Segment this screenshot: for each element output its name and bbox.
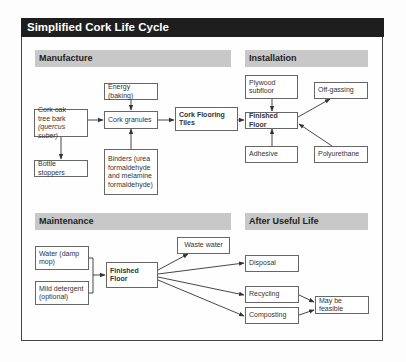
maint-finished-floor-label: Finished Floor	[110, 267, 154, 284]
composting-box: Composting	[245, 307, 299, 324]
water-box: Water (damp mop)	[35, 246, 89, 270]
polyurethane-box: Polyurethane	[314, 146, 368, 163]
polyurethane-label: Polyurethane	[318, 150, 359, 159]
off-gassing-label: Off-gassing	[318, 86, 354, 95]
bottle-stoppers-box: Bottle stoppers	[34, 160, 88, 177]
adhesive-box: Adhesive	[245, 146, 298, 163]
detergent-box: Mild detergent (optional)	[35, 281, 89, 305]
install-finished-floor-label: Finished Floor	[249, 112, 294, 129]
maint-finished-floor-box: Finished Floor	[106, 262, 158, 288]
binders-label: Binders (urea formaldehyde and melamine …	[108, 155, 154, 189]
off-gassing-box: Off-gassing	[314, 82, 368, 99]
cork-oak-line3: (quercus suber)	[38, 123, 84, 140]
plywood-label: Plywood subfloor	[249, 79, 294, 96]
water-label: Water (damp mop)	[39, 250, 85, 267]
install-finished-floor-box: Finished Floor	[245, 112, 298, 129]
may-be-feasible-label: May be feasible	[319, 297, 365, 314]
energy-box: Energy (baking)	[104, 83, 158, 100]
waste-water-label: Waste water	[184, 241, 223, 250]
cork-oak-box: Cork oak tree bark (quercus suber)	[34, 109, 88, 137]
may-be-feasible-box: May be feasible	[315, 296, 369, 314]
recycling-box: Recycling	[245, 286, 299, 303]
detergent-label: Mild detergent (optional)	[39, 285, 85, 302]
cork-granules-label: Cork granules	[108, 116, 152, 125]
disposal-label: Disposal	[249, 259, 276, 268]
bottle-stoppers-label: Bottle stoppers	[38, 160, 84, 177]
disposal-box: Disposal	[245, 255, 299, 272]
binders-box: Binders (urea formaldehyde and melamine …	[104, 149, 158, 195]
plywood-box: Plywood subfloor	[245, 75, 298, 99]
cork-granules-box: Cork granules	[104, 111, 158, 129]
energy-label: Energy (baking)	[108, 83, 154, 100]
cork-oak-line1: Cork oak	[38, 106, 66, 115]
cork-oak-line2: tree bark	[38, 115, 66, 124]
waste-water-box: Waste water	[177, 237, 230, 254]
composting-label: Composting	[249, 311, 286, 320]
cork-tiles-label: Cork Flooring Tiles	[179, 111, 234, 128]
adhesive-label: Adhesive	[249, 150, 278, 159]
recycling-label: Recycling	[249, 290, 279, 299]
cork-tiles-box: Cork Flooring Tiles	[175, 107, 238, 131]
